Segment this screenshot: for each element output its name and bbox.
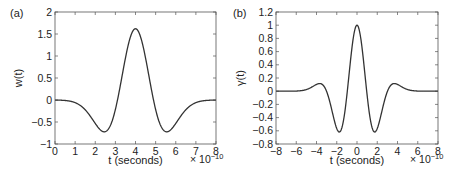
- y-tick-label: 0: [267, 85, 273, 97]
- y-tick-label: 0.6: [258, 45, 273, 57]
- y-tick-label: 1: [46, 50, 52, 62]
- y-tick-label: 0.2: [258, 72, 273, 84]
- x-tick-label: −6: [290, 145, 302, 157]
- y-tick-label: 1: [267, 19, 273, 31]
- x-tick-label: −4: [311, 145, 323, 157]
- y-axis-label-a: w(t): [12, 69, 24, 88]
- x-tick-label: 1: [72, 145, 78, 157]
- y-tick-label: 0.8: [258, 32, 273, 44]
- y-axis-label-b: γ(t): [234, 70, 246, 86]
- data-series-w: [55, 29, 216, 132]
- y-tick-label: −0.6: [252, 124, 273, 136]
- x-multiplier-b: × 10−10: [410, 152, 443, 165]
- y-tick-label: 1.2: [258, 6, 273, 18]
- x-tick-label: 2: [92, 145, 98, 157]
- chart-panel-b: (b) −0.8−0.6−0.4−0.200.20.40.60.811.2 −8…: [233, 6, 443, 167]
- x-multiplier-a: × 10−10: [190, 152, 223, 165]
- plot-frame-b: [276, 12, 438, 144]
- y-axis-ticks-b: −0.8−0.6−0.4−0.200.20.40.60.811.2: [252, 6, 438, 150]
- y-axis-ticks-a: −1−0.500.511.52: [31, 6, 216, 150]
- y-tick-label: −0.2: [252, 98, 273, 110]
- chart-panel-a: (a) −1−0.500.511.52 012345678 t (seconds…: [10, 6, 223, 167]
- x-tick-label: 6: [173, 145, 179, 157]
- plot-frame-a: [55, 12, 216, 144]
- data-series-gamma: [276, 25, 438, 132]
- panel-label-a: (a): [10, 7, 23, 19]
- y-tick-label: −1: [40, 138, 52, 150]
- x-axis-label-a: t (seconds): [108, 154, 162, 166]
- y-tick-label: −0.4: [252, 111, 273, 123]
- y-tick-label: 0.5: [37, 72, 52, 84]
- y-tick-label: 1.5: [37, 28, 52, 40]
- figure: (a) −1−0.500.511.52 012345678 t (seconds…: [0, 0, 455, 179]
- x-tick-label: −8: [270, 145, 282, 157]
- x-tick-label: 0: [52, 145, 58, 157]
- x-tick-label: 4: [395, 145, 401, 157]
- panel-label-b: (b): [233, 7, 246, 19]
- x-axis-ticks-b: −8−6−4−202468: [270, 12, 441, 157]
- y-tick-label: −0.5: [31, 116, 52, 128]
- y-tick-label: 0: [46, 94, 52, 106]
- x-axis-label-b: t (seconds): [330, 154, 384, 166]
- x-axis-ticks-a: 012345678: [52, 12, 219, 157]
- y-tick-label: 0.4: [258, 58, 273, 70]
- y-tick-label: 2: [46, 6, 52, 18]
